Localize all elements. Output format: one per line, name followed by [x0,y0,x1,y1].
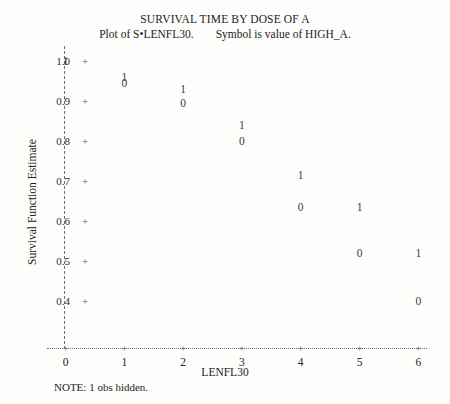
data-point-symbol: 1 [235,120,249,132]
survival-plot-page: SURVIVAL TIME BY DOSE OF A Plot of S•LEN… [0,0,450,404]
x-tick-mark: + [290,343,312,353]
y-tick-label: 0.5 [36,256,70,267]
data-point-symbol: 1 [411,248,425,260]
y-tick-0.4: 0.4+ [20,296,70,307]
data-point-symbol: 0 [235,136,249,148]
y-tick-label: 0.6 [36,216,70,227]
x-axis-title: LENFL30 [0,366,450,378]
y-tick-mark: + [80,136,90,147]
y-tick-mark: + [80,216,90,227]
y-tick-label: 0.8 [36,136,70,147]
y-tick-mark: + [80,256,90,267]
x-tick-mark: + [172,343,194,353]
y-tick-label: 0.4 [36,296,70,307]
y-axis-title: Survival Function Estimate [26,107,38,297]
data-point-symbol: 1 [353,202,367,214]
data-point-symbol: 0 [176,98,190,110]
y-tick-label: 0.9 [36,96,70,107]
y-tick-mark: + [80,296,90,307]
data-point-symbol: 0 [117,78,131,90]
plot-area: 0.4+0.5+0.6+0.7+0.8+0.9+1.0+ +0+1+2+3+4+… [0,0,450,404]
y-tick-mark: + [80,96,90,107]
data-point-symbol: 0 [294,202,308,214]
data-point-symbol: 0 [411,296,425,308]
data-point-symbol: 0 [353,248,367,260]
y-tick-mark: + [80,56,90,67]
data-point-symbol: 1 [59,56,73,68]
x-tick-mark: + [407,343,429,353]
x-tick-mark: + [231,343,253,353]
y-tick-0.9: 0.9+ [20,96,70,107]
data-point-symbol: 1 [294,170,308,182]
data-point-symbol: 1 [176,84,190,96]
x-tick-mark: + [55,343,77,353]
footnote-note: NOTE: 1 obs hidden. [54,381,148,393]
y-tick-label: 0.7 [36,176,70,187]
y-tick-mark: + [80,176,90,187]
x-tick-mark: + [113,343,135,353]
x-tick-mark: + [349,343,371,353]
